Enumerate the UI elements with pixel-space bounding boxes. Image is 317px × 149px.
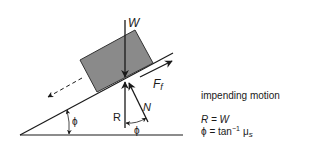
angle-arc-rn xyxy=(126,118,146,123)
angle-arc-incline xyxy=(67,110,69,134)
impending-motion-arrow xyxy=(48,78,82,97)
angle-label-rn: ϕ xyxy=(134,125,140,136)
caption-eq2: ϕ = tan−1μs xyxy=(201,125,253,139)
reaction-label: R xyxy=(113,111,121,123)
caption-title: impending motion xyxy=(201,90,280,101)
normal-label: N xyxy=(143,101,151,113)
angle-label-incline: ϕ xyxy=(72,116,78,127)
incline-diagram: W Ff R N ϕ ϕ impending motion R = W ϕ = … xyxy=(0,0,317,149)
friction-label: Ff xyxy=(153,77,164,92)
weight-label: W xyxy=(128,16,141,30)
caption-eq1: R = W xyxy=(201,114,231,125)
